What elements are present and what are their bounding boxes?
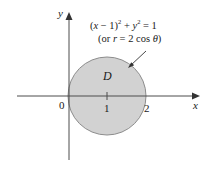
y-axis-label: y	[58, 8, 63, 19]
figure-disk-d: y x 0 1 2 D (x − 1)2 + y2 = 1 (or r = 2 …	[0, 0, 213, 169]
eq-polar-body: = 2 cos	[117, 33, 153, 44]
region-label-d: D	[103, 70, 112, 82]
y-axis-arrowhead	[66, 12, 73, 20]
tick-label-origin: 0	[59, 100, 65, 111]
x-axis-label: x	[193, 100, 198, 111]
eq-cartesian-mid: − 1)	[98, 20, 118, 31]
tick-label-2: 2	[144, 103, 150, 114]
equation-polar: (or r = 2 cos θ)	[98, 34, 161, 45]
eq-cartesian-plus: +	[121, 20, 132, 31]
eq-cartesian-equals: = 1	[140, 20, 156, 31]
tick-label-1: 1	[104, 103, 110, 114]
equation-cartesian: (x − 1)2 + y2 = 1	[90, 19, 157, 31]
eq-polar-open: (or	[98, 33, 113, 44]
eq-polar-close: )	[158, 33, 162, 44]
